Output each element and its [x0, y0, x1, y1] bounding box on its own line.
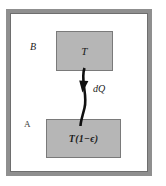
thermodynamics-figure: B A T T(1−ϵ) dQ	[0, 0, 166, 186]
hot-reservoir-block: T	[56, 31, 113, 71]
cold-reservoir-block: T(1−ϵ)	[46, 119, 121, 158]
region-label-b: B	[30, 41, 36, 52]
region-label-a: A	[24, 119, 31, 129]
cold-reservoir-label: T(1−ϵ)	[69, 133, 98, 144]
heat-flow-label-dq: dQ	[93, 83, 105, 94]
hot-reservoir-label: T	[81, 45, 87, 57]
